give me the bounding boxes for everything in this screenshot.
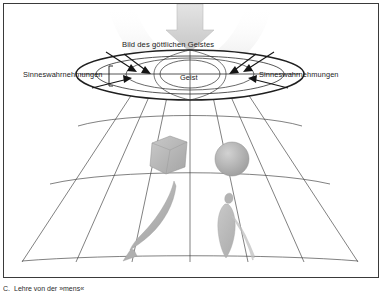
figure-caption: C.Lehre von der »mens« xyxy=(3,283,203,294)
caption-marker: C. xyxy=(3,285,10,292)
human-head xyxy=(225,193,233,203)
object-cube xyxy=(150,136,187,174)
grid-radial-6 xyxy=(228,90,304,262)
object-sphere xyxy=(215,142,249,176)
label-mind-center: Geist xyxy=(180,73,198,82)
cube-shape xyxy=(150,136,187,174)
fish-body xyxy=(130,181,176,250)
object-human xyxy=(218,193,254,260)
fish-tail xyxy=(123,249,137,261)
object-fish xyxy=(123,181,176,261)
sphere-shape xyxy=(215,142,249,176)
perspective-grid xyxy=(22,88,358,262)
human-body xyxy=(218,204,235,258)
page-root: Bild des göttlichen Geistes Sinneswahrne… xyxy=(0,0,385,295)
label-sense-perceptions-left: Sinneswahrnehmungen xyxy=(23,70,103,79)
caption-text: Lehre von der »mens« xyxy=(14,285,84,292)
figure-frame: Bild des göttlichen Geistes Sinneswahrne… xyxy=(3,3,379,278)
label-divine-image: Bild des göttlichen Geistes xyxy=(122,40,214,49)
label-sense-perceptions-right: Sinneswahrnehmungen xyxy=(259,70,339,79)
